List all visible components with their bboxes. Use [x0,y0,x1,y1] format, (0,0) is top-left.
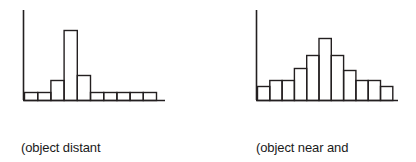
histogram-bar [25,93,38,101]
histogram-figure: (object distant and to the left) (object… [0,0,416,162]
histogram-bar [143,93,156,101]
histogram-bar [130,93,143,101]
histogram-bar [282,81,294,101]
caption-left: (object distant and to the left) [0,108,208,162]
histogram-bar [270,81,282,101]
histogram-bar [368,81,380,101]
histogram-bar [38,93,51,101]
histogram-bar [64,31,77,101]
histogram-bar [258,87,270,101]
histogram-right-svg [208,0,416,110]
histogram-bar [344,71,356,101]
histogram-bar [91,93,104,101]
histogram-bar [294,69,306,101]
histogram-bar [77,76,90,101]
histogram-left-svg [0,0,208,110]
caption-left-line1: (object distant [0,140,208,156]
panel-object-near: (object near and straight ahead) [208,0,416,162]
histogram-bar [51,81,64,101]
histogram-chart-right [208,0,416,110]
bar-group-left [25,31,157,101]
histogram-bar [319,39,331,101]
caption-right: (object near and straight ahead) [208,108,416,162]
caption-right-line1: (object near and [208,140,416,156]
panel-object-distant: (object distant and to the left) [0,0,208,162]
bar-group-right [258,39,393,101]
histogram-bar [117,93,130,101]
histogram-bar [331,56,343,101]
histogram-bar [356,81,368,101]
histogram-bar [104,93,117,101]
histogram-bar [307,56,319,101]
histogram-bar [381,87,393,101]
histogram-chart-left [0,0,208,110]
